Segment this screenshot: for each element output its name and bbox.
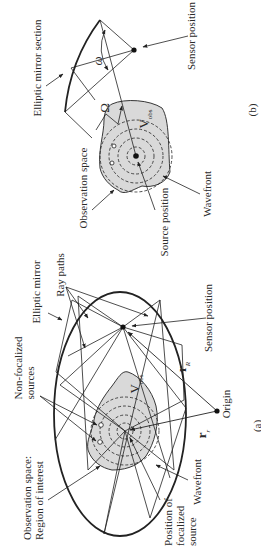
label-elliptic-mirror-section: Elliptic mirror section (31, 19, 43, 116)
label-observation-space-b: Observation space (77, 148, 89, 229)
label-elliptic-mirror: Elliptic mirror (30, 260, 42, 323)
label-wavefront-b: Wavefront (201, 171, 213, 217)
label-sensor-position-b: Sensor position (185, 2, 197, 70)
symbol-omega-small: ω (90, 56, 106, 65)
label-origin: Origin (220, 390, 232, 419)
v-obs-sub: obs (146, 109, 154, 119)
r-R-sub: R (184, 362, 192, 366)
label-observation-space-region: Observation space: Region of interest (21, 456, 45, 540)
mirror-section-arc (65, 20, 100, 112)
v-obs-sub: obs (137, 374, 145, 384)
observation-space-blob-b (100, 101, 170, 193)
symbol-omega-large: Ω (97, 103, 113, 113)
symbol-r-R: rR (174, 362, 192, 372)
label-focalized-source: Position of focalized source (162, 498, 198, 546)
label-ray-paths: Ray paths (54, 253, 66, 297)
r-r-sub: r (204, 430, 212, 433)
label-source-position: Source position (158, 188, 170, 257)
caption-b: (b) (246, 104, 258, 117)
panel-b-diagram (46, 20, 200, 210)
r-R-main: r (174, 366, 189, 372)
v-obs-main: V (136, 119, 151, 128)
label-non-focalized-sources: Non-focalized sources (12, 337, 36, 400)
symbol-v-obs-b: Vobs (136, 109, 154, 128)
v-obs-main: V (127, 384, 142, 393)
label-sensor-position-a: Sensor position (202, 284, 214, 352)
symbol-r-r: rr (194, 430, 212, 439)
r-r-main: r (194, 432, 209, 438)
symbol-v-obs-a: Vobs (127, 374, 145, 393)
caption-a: (a) (251, 420, 261, 432)
